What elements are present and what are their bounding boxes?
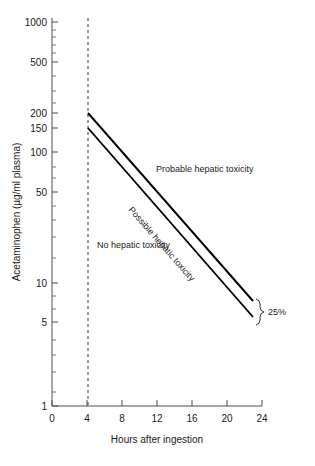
probable-toxicity-line (88, 113, 253, 301)
y-tick-label-1: 1 (41, 401, 47, 412)
x-tick-label-8: 8 (119, 413, 125, 424)
x-tick-label-4: 4 (84, 413, 90, 424)
probable-region-label: Probable hepatic toxicity (156, 164, 254, 174)
y-axis-title: Acetaminophen (µg/ml plasma) (11, 143, 22, 282)
x-axis-title: Hours after ingestion (111, 434, 203, 445)
percent-brace (256, 299, 264, 325)
nomogram-chart: 1000 500 200 150 100 50 10 5 1 0 4 8 12 … (0, 0, 315, 466)
x-tick-label-0: 0 (49, 413, 55, 424)
chart-canvas: 1000 500 200 150 100 50 10 5 1 0 4 8 12 … (0, 0, 315, 466)
y-tick-label-150: 150 (30, 123, 47, 134)
y-tick-label-100: 100 (30, 147, 47, 158)
y-tick-label-5: 5 (41, 317, 47, 328)
y-axis-tick-labels: 1000 500 200 150 100 50 10 5 1 (25, 17, 48, 412)
possible-toxicity-line (88, 128, 253, 317)
y-tick-label-1000: 1000 (25, 17, 48, 28)
x-axis-ticks (52, 400, 262, 406)
percent-difference-label: 25% (268, 307, 286, 317)
y-axis-minor-ticks (52, 30, 56, 392)
axis-lines (52, 18, 262, 406)
x-tick-label-20: 20 (221, 413, 233, 424)
y-axis-major-ticks (52, 22, 58, 406)
x-tick-label-24: 24 (256, 413, 268, 424)
no-toxicity-region-label: No hepatic toxicity (97, 240, 171, 250)
y-tick-label-500: 500 (30, 57, 47, 68)
x-tick-label-12: 12 (151, 413, 163, 424)
nomogram-lines (88, 113, 253, 317)
y-tick-label-200: 200 (30, 108, 47, 119)
x-axis-tick-labels: 0 4 8 12 16 20 24 (49, 413, 268, 424)
x-tick-label-16: 16 (186, 413, 198, 424)
y-tick-label-10: 10 (36, 278, 48, 289)
y-tick-label-50: 50 (36, 187, 48, 198)
